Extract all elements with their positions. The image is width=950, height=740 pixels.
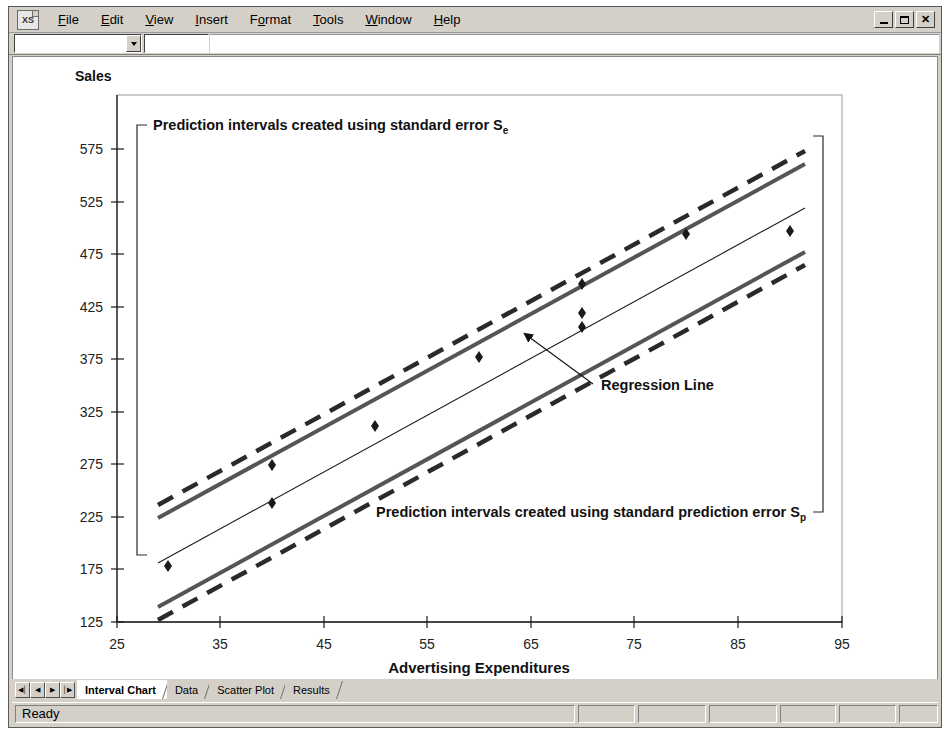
last-sheet-icon: │▶ bbox=[63, 686, 72, 694]
sp-annotation-text: Prediction intervals created using stand… bbox=[376, 504, 800, 520]
menu-item-edit[interactable]: Edit bbox=[90, 10, 134, 29]
x-tick-label: 35 bbox=[212, 636, 228, 652]
data-point bbox=[578, 307, 586, 319]
window-controls: ✕ bbox=[874, 11, 935, 28]
y-tick-label: 425 bbox=[80, 299, 104, 315]
menu-item-insert[interactable]: Insert bbox=[184, 10, 239, 29]
status-cell-3 bbox=[709, 705, 777, 723]
menu-label-tools-rest: ools bbox=[320, 12, 344, 27]
status-cell-1 bbox=[578, 705, 635, 723]
sheet-nav-buttons: ◀│ ◀ ▶ │▶ bbox=[15, 682, 75, 698]
y-tick-label: 475 bbox=[80, 246, 104, 262]
formula-box[interactable] bbox=[144, 34, 209, 53]
y-tick-label: 375 bbox=[80, 351, 104, 367]
menu-label-help-rest: elp bbox=[443, 12, 460, 27]
menu-item-view[interactable]: View bbox=[134, 10, 184, 29]
menu-item-tools[interactable]: Tools bbox=[302, 10, 354, 29]
lower-prediction-band-sp bbox=[158, 265, 805, 620]
y-tick-label: 525 bbox=[80, 194, 104, 210]
restore-icon bbox=[900, 16, 909, 24]
tab-interval-chart[interactable]: Interval Chart bbox=[77, 680, 167, 699]
x-axis-title: Advertising Expenditures bbox=[388, 659, 570, 676]
chart-client-area: Sales 125 175 225 275 325 375 425 475 bbox=[12, 56, 938, 684]
tab-label: Data bbox=[175, 684, 198, 696]
sheet-tab-bar: ◀│ ◀ ▶ │▶ Interval Chart Data Scatter Pl… bbox=[12, 679, 938, 699]
tab-label: Results bbox=[293, 684, 330, 696]
previous-sheet-button[interactable]: ◀ bbox=[30, 682, 45, 698]
status-cell-4 bbox=[780, 705, 837, 723]
data-point bbox=[268, 459, 276, 471]
data-point bbox=[475, 351, 483, 363]
close-icon: ✕ bbox=[921, 14, 930, 25]
se-annotation-subscript: e bbox=[503, 125, 509, 136]
y-tick-label: 275 bbox=[80, 456, 104, 472]
minimize-button[interactable] bbox=[874, 11, 893, 28]
minimize-icon bbox=[880, 22, 888, 24]
se-bracket bbox=[137, 125, 147, 555]
tab-label: Interval Chart bbox=[85, 684, 156, 696]
y-tick-label: 175 bbox=[80, 561, 104, 577]
upper-prediction-band-sp bbox=[158, 151, 805, 505]
tab-results[interactable]: Results bbox=[285, 681, 341, 699]
menu-label-insert-rest: nsert bbox=[199, 12, 228, 27]
regression-callout-arrow bbox=[525, 334, 593, 384]
status-message-panel: Ready bbox=[15, 705, 575, 723]
regression-callout-label: Regression Line bbox=[601, 377, 714, 393]
application-icon-label: XS bbox=[22, 15, 34, 25]
lower-confidence-band-se bbox=[158, 252, 805, 607]
application-icon[interactable]: XS bbox=[17, 10, 39, 30]
upper-confidence-band-se bbox=[158, 164, 805, 518]
data-point bbox=[164, 560, 172, 572]
data-point bbox=[371, 420, 379, 432]
x-tick-label: 85 bbox=[730, 636, 746, 652]
previous-sheet-icon: ◀ bbox=[35, 686, 40, 694]
y-tick-label: 325 bbox=[80, 404, 104, 420]
sp-bracket bbox=[813, 136, 823, 512]
y-tick-label: 125 bbox=[80, 614, 104, 630]
toolbar bbox=[9, 33, 941, 55]
toolbar-empty-area bbox=[210, 34, 939, 53]
close-button[interactable]: ✕ bbox=[916, 11, 935, 28]
menu-item-window[interactable]: Window bbox=[354, 10, 422, 29]
y-axis-title: Sales bbox=[75, 68, 112, 84]
first-sheet-button[interactable]: ◀│ bbox=[15, 682, 30, 698]
menu-label-window-rest: indow bbox=[378, 12, 412, 27]
restore-button[interactable] bbox=[895, 11, 914, 28]
status-message: Ready bbox=[22, 706, 60, 721]
menu-item-file[interactable]: File bbox=[47, 10, 90, 29]
status-cell-5 bbox=[839, 705, 896, 723]
x-tick-label: 25 bbox=[109, 636, 125, 652]
application-window: XS File Edit View Insert Format Tools Wi… bbox=[8, 6, 942, 728]
chevron-down-icon[interactable] bbox=[126, 35, 141, 52]
last-sheet-button[interactable]: │▶ bbox=[60, 682, 75, 698]
x-tick-label: 45 bbox=[316, 636, 332, 652]
status-cell-6 bbox=[899, 705, 938, 723]
tab-label: Scatter Plot bbox=[217, 684, 274, 696]
menu-label-view-rest: iew bbox=[154, 12, 174, 27]
tab-scatter-plot[interactable]: Scatter Plot bbox=[209, 681, 285, 699]
sp-annotation: Prediction intervals created using stand… bbox=[376, 504, 806, 523]
menu-item-format[interactable]: Format bbox=[239, 10, 302, 29]
menu-item-help[interactable]: Help bbox=[423, 10, 472, 29]
data-point bbox=[578, 321, 586, 333]
screenshot-root: XS File Edit View Insert Format Tools Wi… bbox=[0, 0, 950, 740]
name-box-combo[interactable] bbox=[14, 34, 142, 53]
x-tick-label: 55 bbox=[419, 636, 435, 652]
next-sheet-icon: ▶ bbox=[50, 686, 55, 694]
menu-label-format-rest: rmat bbox=[265, 12, 291, 27]
sheet-tabs: Interval Chart Data Scatter Plot Results bbox=[77, 680, 341, 699]
tab-data[interactable]: Data bbox=[167, 681, 209, 699]
interval-chart[interactable]: Sales 125 175 225 275 325 375 425 475 bbox=[13, 57, 937, 683]
y-tick-label: 225 bbox=[80, 509, 104, 525]
status-cell-2 bbox=[638, 705, 706, 723]
x-tick-label: 75 bbox=[626, 636, 642, 652]
y-tick-label: 575 bbox=[80, 141, 104, 157]
se-annotation-text: Prediction intervals created using stand… bbox=[153, 117, 503, 133]
se-annotation: Prediction intervals created using stand… bbox=[153, 117, 509, 136]
data-point bbox=[786, 225, 794, 237]
next-sheet-button[interactable]: ▶ bbox=[45, 682, 60, 698]
first-sheet-icon: ◀│ bbox=[18, 686, 27, 694]
menu-label-file-rest: ile bbox=[66, 12, 79, 27]
menu-label-edit-rest: dit bbox=[110, 12, 124, 27]
x-tick-label: 95 bbox=[834, 636, 850, 652]
